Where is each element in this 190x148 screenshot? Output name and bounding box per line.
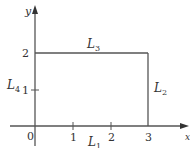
segment-label-l3: L3 bbox=[86, 37, 100, 53]
segment-label-l4: L4 bbox=[6, 78, 20, 94]
y-tick-label-1: 1 bbox=[22, 84, 29, 97]
x-tick-label-1: 1 bbox=[70, 131, 77, 144]
x-axis-arrow-icon bbox=[180, 123, 189, 129]
coordinate-diagram: y x 2 1 0 1 2 3 L3 L2 L4 L1 bbox=[0, 0, 190, 148]
x-tick-label-3: 3 bbox=[145, 131, 152, 144]
y-axis-arrow-icon bbox=[32, 5, 38, 14]
x-tick-label-2: 2 bbox=[108, 131, 115, 144]
origin-label: 0 bbox=[27, 130, 34, 143]
segment-label-l2: L2 bbox=[153, 81, 167, 97]
y-tick-label-2: 2 bbox=[22, 47, 29, 60]
segment-label-l1: L1 bbox=[87, 135, 101, 148]
x-axis-label: x bbox=[185, 132, 190, 142]
y-axis-label: y bbox=[24, 5, 32, 18]
